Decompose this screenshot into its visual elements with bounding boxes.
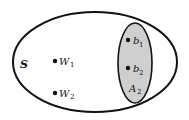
universe-label: S [20, 58, 28, 71]
point-b1-subscript: 1 [139, 41, 143, 49]
subset-label: A [128, 83, 136, 94]
subset-subscript: 2 [137, 88, 141, 96]
point-w2-subscript: 2 [70, 93, 74, 101]
point-b1-dot [126, 38, 130, 42]
point-w1-label: W [59, 56, 70, 67]
point-w1-subscript: 1 [70, 61, 74, 69]
point-w2-dot [53, 91, 57, 95]
point-b2-dot [126, 66, 130, 70]
point-w1-dot [53, 59, 57, 63]
point-b2-subscript: 2 [139, 69, 143, 77]
point-w2-label: W [59, 88, 70, 99]
set-diagram: S W 1 W 2 b 1 b 2 A 2 [0, 0, 189, 120]
